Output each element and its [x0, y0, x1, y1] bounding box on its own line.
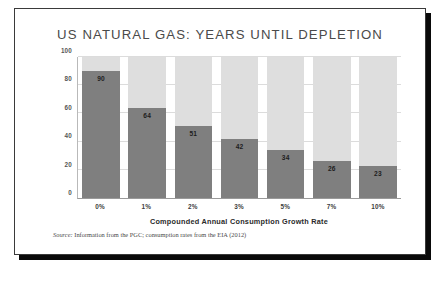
- bar[interactable]: 64: [128, 108, 165, 198]
- bar-value-label: 26: [313, 165, 350, 172]
- figure-frame: US NATURAL GAS: YEARS UNTIL DEPLETION YE…: [14, 8, 426, 255]
- x-tick-label: 3%: [220, 203, 258, 210]
- bar-value-label: 64: [128, 112, 165, 119]
- x-axis-tick-labels: 0%1%2%3%5%7%10%: [77, 203, 401, 210]
- bar-slot[interactable]: 26: [313, 57, 350, 198]
- bar[interactable]: 26: [313, 161, 350, 198]
- x-tick-label: 1%: [128, 203, 166, 210]
- bar-value-label: 51: [175, 130, 212, 137]
- bar-value-label: 34: [267, 154, 304, 161]
- y-tick-label: 60: [65, 103, 72, 110]
- y-tick-label: 40: [65, 132, 72, 139]
- x-tick-label: 0%: [81, 203, 119, 210]
- plot-block: YEARS FROM 2012 020406080100 90645142342…: [41, 57, 401, 209]
- x-tick-label: 7%: [313, 203, 351, 210]
- bar[interactable]: 34: [267, 150, 304, 198]
- y-tick-label: 0: [68, 189, 72, 196]
- source-label: Source:: [53, 231, 73, 238]
- bar-slot[interactable]: 51: [175, 57, 212, 198]
- bar[interactable]: 90: [82, 71, 119, 198]
- bar-value-label: 23: [359, 170, 396, 177]
- y-tick-label: 20: [65, 160, 72, 167]
- bar-slot[interactable]: 34: [267, 57, 304, 198]
- bar-slot[interactable]: 42: [221, 57, 258, 198]
- bar-value-label: 42: [221, 143, 258, 150]
- bar[interactable]: 23: [359, 166, 396, 198]
- y-tick-label: 100: [61, 47, 72, 54]
- bars-layer: 90645142342623: [78, 57, 401, 198]
- bar-value-label: 90: [82, 75, 119, 82]
- source-note: Source: Information from the PGC; consum…: [53, 231, 246, 238]
- bar[interactable]: 42: [221, 139, 258, 198]
- x-tick-label: 2%: [174, 203, 212, 210]
- bar-slot[interactable]: 64: [128, 57, 165, 198]
- y-axis-tick-labels: 020406080100: [53, 57, 75, 199]
- bar-slot[interactable]: 23: [359, 57, 396, 198]
- y-tick-label: 80: [65, 75, 72, 82]
- x-tick-label: 5%: [266, 203, 304, 210]
- source-text: Information from the PGC; consumption ra…: [74, 231, 246, 238]
- plot-area: 90645142342623: [77, 57, 401, 199]
- x-axis-title: Compounded Annual Consumption Growth Rat…: [77, 217, 401, 226]
- chart-title: US NATURAL GAS: YEARS UNTIL DEPLETION: [15, 27, 425, 42]
- x-tick-label: 10%: [359, 203, 397, 210]
- bar-slot[interactable]: 90: [82, 57, 119, 198]
- bar[interactable]: 51: [175, 126, 212, 198]
